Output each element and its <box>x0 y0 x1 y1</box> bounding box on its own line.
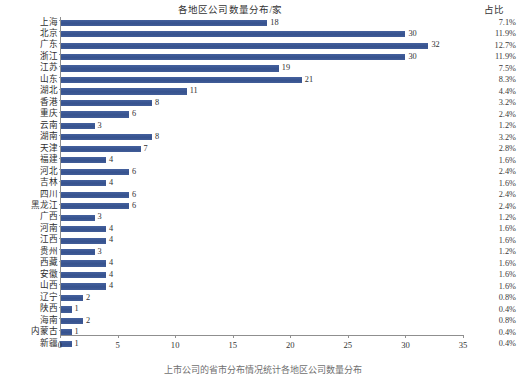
category-label: 内蒙古 <box>0 326 60 337</box>
category-label: 河南 <box>0 223 60 234</box>
bar-row: 河北6 <box>0 166 466 177</box>
bar <box>60 318 83 324</box>
category-label: 湖北 <box>0 85 60 96</box>
x-axis-tick-label: 10 <box>160 340 190 350</box>
bar-value-label: 4 <box>109 223 113 234</box>
category-label: 辽宁 <box>0 292 60 303</box>
bar-row: 黑龙江6 <box>0 201 466 212</box>
category-label: 陕西 <box>0 303 60 314</box>
bar-value-label: 6 <box>132 166 136 177</box>
x-axis-tick <box>118 335 119 338</box>
bar-row: 北京30 <box>0 28 466 39</box>
category-label: 香港 <box>0 97 60 108</box>
percent-value: 0.8% <box>466 315 522 326</box>
bar <box>60 88 187 94</box>
bar-value-label: 7 <box>144 143 148 154</box>
bar-value-label: 2 <box>86 315 90 326</box>
category-label: 江苏 <box>0 62 60 73</box>
category-label: 黑龙江 <box>0 200 60 211</box>
category-label: 吉林 <box>0 177 60 188</box>
bar-row: 辽宁2 <box>0 292 466 303</box>
bar <box>60 157 106 163</box>
chart-title: 各地区公司数量分布/家 <box>0 2 460 16</box>
bar-value-label: 3 <box>98 211 102 222</box>
bar-value-label: 4 <box>109 177 113 188</box>
bar-row: 广西3 <box>0 212 466 223</box>
category-label: 山东 <box>0 74 60 85</box>
percent-value: 11.9% <box>466 51 522 62</box>
percent-value: 7.1% <box>466 17 522 28</box>
bar <box>60 192 129 198</box>
x-axis-tick-label: 20 <box>275 340 305 350</box>
percent-value: 3.2% <box>466 97 522 108</box>
percent-value: 4.4% <box>466 86 522 97</box>
bar <box>60 249 95 255</box>
bar <box>60 146 141 152</box>
percent-value: 1.2% <box>466 212 522 223</box>
x-axis-tick-label: 35 <box>448 340 478 350</box>
bar <box>60 203 129 209</box>
bar-value-label: 30 <box>408 28 416 39</box>
percent-value: 12.7% <box>466 40 522 51</box>
bar-value-label: 30 <box>408 51 416 62</box>
bar-row: 湖南8 <box>0 132 466 143</box>
bar-row: 山西4 <box>0 281 466 292</box>
category-label: 上海 <box>0 17 60 28</box>
bar-row: 江苏19 <box>0 63 466 74</box>
bar <box>60 134 152 140</box>
bar <box>60 77 302 83</box>
bar-value-label: 4 <box>109 234 113 245</box>
bar <box>60 54 405 60</box>
bar-value-label: 8 <box>155 131 159 142</box>
percent-value: 2.4% <box>466 189 522 200</box>
plot-area: 上海18北京30广东32浙江30江苏19山东21湖北11香港8重庆6云南3湖南8… <box>0 17 466 335</box>
category-label: 广西 <box>0 211 60 222</box>
x-axis-tick <box>405 335 406 338</box>
bar <box>60 215 95 221</box>
category-label: 西藏 <box>0 257 60 268</box>
bar-row: 重庆6 <box>0 109 466 120</box>
bar <box>60 306 72 312</box>
bar-row: 陕西1 <box>0 304 466 315</box>
bar-row: 西藏4 <box>0 258 466 269</box>
category-label: 安徽 <box>0 269 60 280</box>
bar-value-label: 4 <box>109 269 113 280</box>
category-label: 贵州 <box>0 246 60 257</box>
percent-value: 11.9% <box>466 28 522 39</box>
x-axis-tick-label: 15 <box>218 340 248 350</box>
bar-value-label: 1 <box>75 303 79 314</box>
bar <box>60 180 106 186</box>
x-axis-tick <box>348 335 349 338</box>
bar <box>60 272 106 278</box>
bar-row: 广东32 <box>0 40 466 51</box>
bar-row: 河南4 <box>0 223 466 234</box>
bar-value-label: 4 <box>109 257 113 268</box>
bar-row: 山东21 <box>0 74 466 85</box>
percent-value: 1.6% <box>466 178 522 189</box>
category-label: 江西 <box>0 234 60 245</box>
percent-column-header: 占比 <box>466 2 522 16</box>
percent-value: 2.4% <box>466 166 522 177</box>
percent-value: 0.8% <box>466 292 522 303</box>
bar-value-label: 6 <box>132 108 136 119</box>
bar <box>60 226 106 232</box>
bar-value-label: 18 <box>270 17 278 28</box>
bar-chart: 各地区公司数量分布/家 占比 上海18北京30广东32浙江30江苏19山东21湖… <box>0 0 526 374</box>
category-label: 云南 <box>0 120 60 131</box>
percent-value: 3.2% <box>466 132 522 143</box>
bar <box>60 65 279 71</box>
x-axis-tick <box>290 335 291 338</box>
percent-value: 1.2% <box>466 120 522 131</box>
category-label: 天津 <box>0 143 60 154</box>
category-label: 湖南 <box>0 131 60 142</box>
category-label: 福建 <box>0 154 60 165</box>
bar <box>60 111 129 117</box>
bar-value-label: 4 <box>109 154 113 165</box>
percent-value: 0.4% <box>466 304 522 315</box>
bar-row: 上海18 <box>0 17 466 28</box>
percent-value: 8.3% <box>466 74 522 85</box>
x-axis-tick-label: 5 <box>103 340 133 350</box>
bar-value-label: 4 <box>109 280 113 291</box>
bar <box>60 238 106 244</box>
percent-value: 1.6% <box>466 223 522 234</box>
